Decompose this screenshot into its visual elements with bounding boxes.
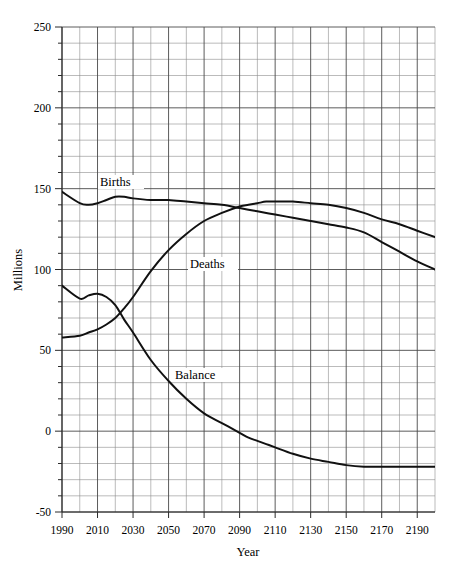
x-tick-label: 1990 — [51, 524, 74, 536]
y-tick-label: 50 — [40, 344, 52, 356]
x-tick-label: 2150 — [335, 524, 358, 536]
axis-tick-marks — [55, 27, 417, 518]
series-annotation-births: Births — [100, 175, 131, 189]
x-axis-tick-labels: 1990201020302050207020902110213021502170… — [51, 524, 429, 536]
y-tick-label: 150 — [34, 183, 52, 195]
x-tick-label: 2190 — [406, 524, 429, 536]
series-annotations: BirthsDeathsBalance — [98, 175, 238, 382]
x-tick-label: 2090 — [228, 524, 251, 536]
y-tick-label: 250 — [34, 21, 52, 33]
data-series-curves — [62, 192, 435, 467]
x-tick-label: 2010 — [86, 524, 109, 536]
y-tick-label: 0 — [45, 425, 51, 437]
series-annotation-deaths: Deaths — [190, 257, 225, 271]
x-tick-label: 2050 — [157, 524, 180, 536]
series-line-balance — [62, 286, 435, 467]
chart-container: 250200150100500-50 199020102030205020702… — [0, 0, 453, 573]
series-annotation-balance: Balance — [175, 368, 216, 382]
x-tick-label: 2110 — [264, 524, 287, 536]
x-axis-title: Year — [236, 545, 260, 559]
y-tick-label: 200 — [34, 102, 52, 114]
x-tick-label: 2070 — [193, 524, 216, 536]
major-gridlines — [62, 27, 435, 512]
y-axis-tick-labels: 250200150100500-50 — [34, 21, 52, 518]
x-tick-label: 2130 — [299, 524, 322, 536]
series-line-births — [62, 192, 435, 270]
x-tick-label: 2170 — [370, 524, 393, 536]
population-projection-chart: 250200150100500-50 199020102030205020702… — [0, 0, 453, 573]
y-tick-label: -50 — [36, 506, 52, 518]
y-tick-label: 100 — [34, 264, 52, 276]
x-tick-label: 2030 — [122, 524, 145, 536]
y-axis-title: Millions — [11, 249, 25, 292]
